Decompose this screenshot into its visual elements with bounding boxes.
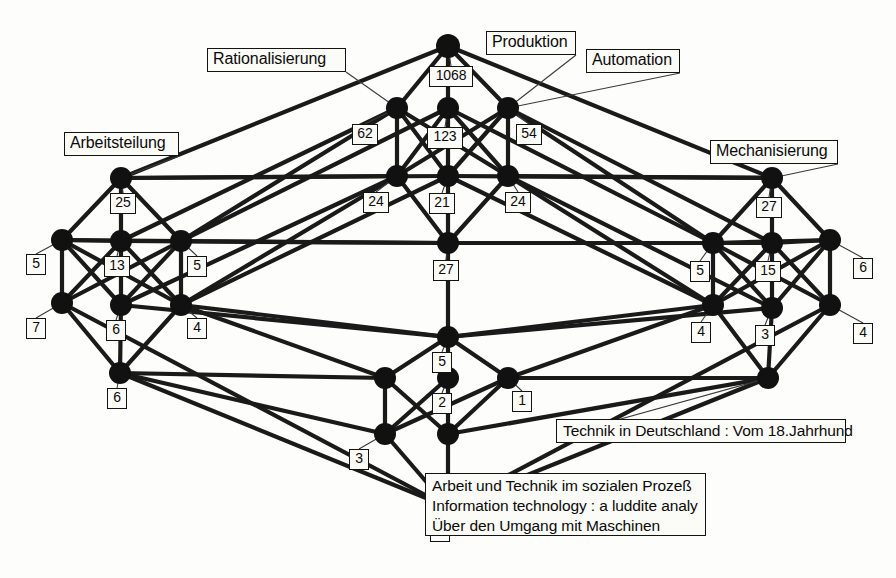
node-count-label: 54 (516, 124, 542, 145)
lattice-node[interactable] (819, 229, 841, 251)
object-label: Arbeit und Technik im sozialen ProzeßInf… (425, 473, 706, 536)
object-label-line: Über den Umgang mit Maschinen (432, 516, 699, 536)
node-count-label: 5 (187, 256, 207, 277)
lattice-node[interactable] (702, 294, 724, 316)
lattice-node[interactable] (110, 167, 132, 189)
lattice-node[interactable] (51, 292, 73, 314)
label-leader-line (508, 73, 680, 108)
node-count-label: 1068 (429, 66, 473, 87)
lattice-edge (448, 176, 508, 243)
node-count-label: 21 (429, 193, 455, 214)
lattice-edge (508, 176, 772, 178)
node-count-label: 27 (756, 197, 782, 218)
lattice-node[interactable] (437, 423, 459, 445)
attribute-label: Rationalisierung (207, 48, 346, 72)
lattice-node[interactable] (110, 230, 132, 252)
node-count-label: 13 (104, 256, 130, 277)
lattice-node[interactable] (386, 165, 408, 187)
label-leader-line (508, 55, 576, 108)
node-count-label: 6 (106, 320, 126, 341)
node-count-label: 5 (26, 254, 46, 275)
attribute-label: Produktion (486, 31, 576, 55)
lattice-node[interactable] (761, 167, 783, 189)
node-count-label: 27 (433, 260, 459, 281)
object-label: Technik in Deutschland : Vom 18.Jahrhund (556, 419, 846, 443)
lattice-diagram-canvas: 1068621235425242124275135275156764434562… (0, 0, 896, 578)
lattice-node[interactable] (761, 232, 783, 254)
lattice-node[interactable] (374, 367, 396, 389)
lattice-edge (120, 373, 385, 378)
node-count-label: 4 (691, 322, 711, 343)
lattice-node[interactable] (437, 232, 459, 254)
lattice-edge (448, 176, 713, 305)
object-label-line: Technik in Deutschland : Vom 18.Jahrhund (563, 422, 839, 439)
node-count-label: 3 (755, 325, 775, 346)
node-count-label: 5 (432, 352, 452, 373)
lattice-node[interactable] (761, 297, 783, 319)
lattice-node[interactable] (110, 294, 132, 316)
node-count-label: 6 (853, 258, 873, 279)
lattice-node[interactable] (497, 165, 519, 187)
node-count-label: 24 (363, 192, 389, 213)
lattice-node[interactable] (109, 362, 131, 384)
node-count-label: 4 (187, 318, 207, 339)
lattice-node[interactable] (436, 34, 460, 58)
attribute-label: Arbeitsteilung (64, 132, 179, 156)
node-count-label: 25 (110, 193, 136, 214)
lattice-node[interactable] (497, 97, 519, 119)
lattice-node[interactable] (437, 97, 459, 119)
lattice-edge (181, 241, 448, 243)
node-count-label: 4 (853, 323, 873, 344)
attribute-label: Mechanisierung (710, 140, 838, 164)
attribute-label: Automation (586, 49, 680, 73)
lattice-node[interactable] (497, 367, 519, 389)
lattice-node[interactable] (437, 165, 459, 187)
node-count-label: 7 (26, 318, 46, 339)
lattice-node[interactable] (819, 294, 841, 316)
lattice-edge (120, 373, 448, 507)
lattice-node[interactable] (170, 294, 192, 316)
node-count-label: 2 (432, 393, 452, 414)
lattice-edge (448, 308, 772, 337)
object-label-line: Arbeit und Technik im sozialen Prozeß (432, 476, 699, 496)
node-count-label: 6 (107, 388, 127, 409)
node-count-label: 123 (427, 127, 463, 149)
node-count-label: 3 (349, 449, 369, 470)
node-count-label: 1 (512, 391, 532, 412)
lattice-node[interactable] (437, 326, 459, 348)
lattice-node[interactable] (386, 97, 408, 119)
lattice-node[interactable] (51, 229, 73, 251)
lattice-node[interactable] (374, 423, 396, 445)
object-label-line: Information technology : a luddite analy (432, 496, 699, 516)
lattice-node[interactable] (170, 230, 192, 252)
node-count-label: 62 (352, 124, 378, 145)
node-count-label: 24 (505, 192, 531, 213)
node-count-label: 15 (755, 261, 781, 282)
node-count-label: 5 (690, 261, 710, 282)
lattice-node[interactable] (757, 367, 779, 389)
lattice-node[interactable] (702, 232, 724, 254)
